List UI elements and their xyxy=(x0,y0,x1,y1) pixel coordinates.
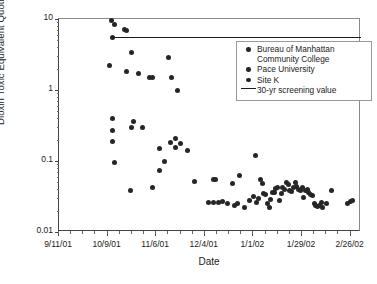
x-axis-minor-tick xyxy=(277,231,278,234)
data-point xyxy=(157,168,162,173)
data-point xyxy=(324,201,329,206)
x-axis-tick-label: 1/1/02 xyxy=(241,239,265,249)
data-point xyxy=(175,88,180,93)
x-axis-tick-label: 1/29/02 xyxy=(287,239,315,249)
legend-label: 30-yr screening value xyxy=(257,86,336,96)
data-point xyxy=(279,191,284,196)
x-axis-minor-tick xyxy=(216,231,217,234)
data-point xyxy=(242,205,247,210)
x-axis-minor-tick xyxy=(350,231,351,234)
legend-symbol xyxy=(240,45,257,52)
screening-value-line xyxy=(111,37,361,38)
x-axis-minor-tick xyxy=(313,231,314,234)
data-point xyxy=(128,188,133,193)
x-axis-minor-tick xyxy=(155,231,156,234)
x-axis-minor-tick xyxy=(240,231,241,234)
legend-line-swatch xyxy=(241,88,256,89)
legend-item: Bureau of Manhattan Community College xyxy=(240,45,368,64)
data-point xyxy=(192,179,197,184)
data-point xyxy=(260,181,265,186)
legend-dot-swatch xyxy=(246,47,251,52)
data-point xyxy=(129,50,134,55)
data-point xyxy=(124,69,129,74)
data-point xyxy=(110,128,115,133)
data-point xyxy=(162,159,167,164)
data-point xyxy=(253,153,258,158)
y-axis-tick-label: 0.1 xyxy=(0,155,53,164)
data-point xyxy=(310,193,315,198)
data-point xyxy=(235,201,240,206)
data-point xyxy=(247,198,252,203)
data-point xyxy=(277,198,282,203)
x-axis-tick-label: 10/9/01 xyxy=(92,239,120,249)
data-point xyxy=(289,189,294,194)
data-point xyxy=(173,136,178,141)
x-axis-minor-tick xyxy=(204,231,205,234)
data-point xyxy=(213,177,218,182)
x-axis-tick-label: 12/4/01 xyxy=(190,239,218,249)
legend-label: Bureau of Manhattan Community College xyxy=(257,45,335,64)
data-point xyxy=(166,55,171,60)
legend-symbol xyxy=(240,76,257,83)
data-point xyxy=(124,28,129,33)
y-axis-tick-label: 0.01 xyxy=(0,226,53,235)
x-axis-minor-tick xyxy=(325,231,326,234)
x-axis-minor-tick xyxy=(289,231,290,234)
x-axis-minor-tick xyxy=(82,231,83,234)
data-point xyxy=(329,188,334,193)
data-point xyxy=(110,139,115,144)
x-axis-minor-tick xyxy=(143,231,144,234)
x-axis-minor-tick xyxy=(58,231,59,234)
data-point xyxy=(256,196,261,201)
data-point xyxy=(150,185,155,190)
data-point xyxy=(129,125,134,130)
legend-item: 30-yr screening value xyxy=(240,86,368,96)
x-axis-label: Date xyxy=(58,256,360,267)
dioxin-teq-scatter-chart: Dioxin Toxic Equivalent Quotient (pg/m3)… xyxy=(0,0,377,284)
data-point xyxy=(301,195,306,200)
data-point xyxy=(185,148,190,153)
x-axis-minor-tick xyxy=(265,231,266,234)
x-axis-minor-tick xyxy=(337,231,338,234)
data-point xyxy=(237,173,242,178)
x-axis-minor-tick xyxy=(167,231,168,234)
x-axis-minor-tick xyxy=(131,231,132,234)
data-point xyxy=(320,205,325,210)
data-point xyxy=(110,116,115,121)
data-point xyxy=(319,200,324,205)
data-point xyxy=(112,160,117,165)
data-point xyxy=(350,198,355,203)
x-axis-tick-label: 2/26/02 xyxy=(335,239,363,249)
x-axis-minor-tick xyxy=(252,231,253,234)
data-point xyxy=(225,201,230,206)
x-axis-minor-tick xyxy=(119,231,120,234)
data-point xyxy=(254,200,259,205)
legend-dot-swatch xyxy=(246,78,251,83)
x-axis-minor-tick xyxy=(192,231,193,234)
data-point xyxy=(107,63,112,68)
legend-dot-swatch xyxy=(246,67,251,72)
x-axis-tick-label: 11/6/01 xyxy=(141,239,169,249)
data-point xyxy=(150,75,155,80)
x-axis-minor-tick xyxy=(107,231,108,234)
x-axis-minor-tick xyxy=(228,231,229,234)
y-axis-tick-label: 10 xyxy=(0,13,53,22)
legend-symbol xyxy=(240,65,257,72)
chart-legend: Bureau of Manhattan Community CollegePac… xyxy=(236,41,372,101)
x-axis-minor-tick xyxy=(301,231,302,234)
data-point xyxy=(220,199,225,204)
data-point xyxy=(263,192,268,197)
data-point xyxy=(230,181,235,186)
legend-symbol xyxy=(240,86,257,89)
data-point xyxy=(136,71,141,76)
data-point xyxy=(178,141,183,146)
x-axis-tick-label: 9/11/01 xyxy=(44,239,72,249)
data-point xyxy=(157,146,162,151)
y-axis-tick-label: 1 xyxy=(0,84,53,93)
legend-item: Site K xyxy=(240,76,368,86)
x-axis-minor-tick xyxy=(94,231,95,234)
legend-label: Site K xyxy=(257,76,279,86)
data-point xyxy=(112,22,117,27)
data-point xyxy=(169,75,174,80)
data-point xyxy=(268,197,273,202)
